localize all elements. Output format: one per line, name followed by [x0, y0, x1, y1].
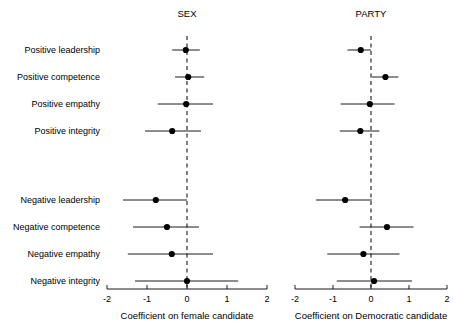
x-tick-label-party-1: -1 [329, 294, 337, 304]
x-axis-title-sex: Coefficient on female candidate [121, 310, 254, 321]
estimate-point-sex-positive-empathy [183, 101, 189, 107]
estimate-point-party-positive-empathy [367, 101, 373, 107]
row-label-negative-empathy: Negative empathy [27, 249, 100, 259]
x-tick-label-sex-0: -2 [103, 294, 111, 304]
estimate-point-sex-negative-competence [164, 224, 170, 230]
x-tick-label-party-0: -2 [291, 294, 299, 304]
row-label-positive-leadership: Positive leadership [24, 45, 100, 55]
row-label-negative-leadership: Negative leadership [20, 195, 100, 205]
x-tick-label-sex-1: -1 [143, 294, 151, 304]
x-tick-label-sex-2: 0 [184, 294, 189, 304]
estimate-point-party-positive-integrity [357, 128, 363, 134]
estimate-point-sex-positive-integrity [169, 128, 175, 134]
row-label-negative-integrity: Negative integrity [30, 276, 100, 286]
estimate-point-party-negative-empathy [360, 251, 366, 257]
row-label-negative-competence: Negative competence [13, 222, 100, 232]
estimate-point-sex-negative-leadership [153, 197, 159, 203]
x-tick-label-party-3: 1 [406, 294, 411, 304]
row-label-positive-integrity: Positive integrity [34, 126, 100, 136]
coefficient-plot-svg: Positive leadershipPositive competencePo… [0, 0, 454, 334]
coefficient-plot-figure: Positive leadershipPositive competencePo… [0, 0, 454, 334]
panel-title-sex: SEX [177, 8, 197, 19]
x-tick-label-sex-3: 1 [224, 294, 229, 304]
estimate-point-party-positive-leadership [358, 47, 364, 53]
x-tick-label-sex-4: 2 [264, 294, 269, 304]
panel-title-party: PARTY [356, 8, 387, 19]
estimate-point-party-positive-competence [382, 74, 388, 80]
row-label-positive-empathy: Positive empathy [31, 99, 100, 109]
x-axis-title-party: Coefficient on Democratic candidate [295, 310, 447, 321]
estimate-point-sex-negative-integrity [184, 278, 190, 284]
estimate-point-sex-positive-leadership [183, 47, 189, 53]
x-tick-label-party-4: 2 [444, 294, 449, 304]
estimate-point-sex-positive-competence [185, 74, 191, 80]
x-tick-label-party-2: 0 [368, 294, 373, 304]
estimate-point-party-negative-leadership [342, 197, 348, 203]
estimate-point-party-negative-competence [384, 224, 390, 230]
estimate-point-sex-negative-empathy [169, 251, 175, 257]
estimate-point-party-negative-integrity [371, 278, 377, 284]
row-label-positive-competence: Positive competence [17, 72, 100, 82]
